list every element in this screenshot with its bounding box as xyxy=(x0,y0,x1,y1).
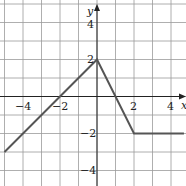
y-tick-label: −4 xyxy=(80,164,96,177)
y-tick-label: −2 xyxy=(80,127,96,140)
x-tick-label: 2 xyxy=(130,100,137,113)
x-axis-label: x xyxy=(181,99,186,112)
y-axis-arrow-icon xyxy=(94,4,100,11)
y-tick-label: 2 xyxy=(87,53,94,66)
graph-plot: y x −4 −2 2 4 4 2 −2 −4 xyxy=(0,0,186,186)
x-tick-label: −2 xyxy=(52,100,68,113)
x-tick-label: 4 xyxy=(167,100,174,113)
x-tick-label: −4 xyxy=(15,100,31,113)
y-tick-label: 4 xyxy=(87,18,94,31)
y-axis-label: y xyxy=(86,5,94,18)
